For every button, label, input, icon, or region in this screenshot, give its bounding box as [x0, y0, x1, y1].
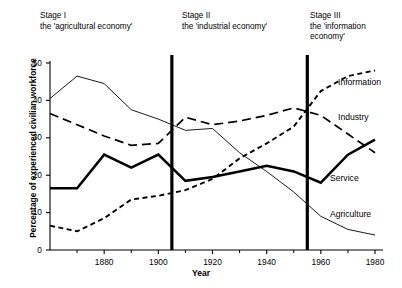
y-tick-label: 10 — [22, 207, 42, 217]
y-tick-label: 20 — [22, 170, 42, 180]
y-tick-label: 0 — [22, 245, 42, 255]
x-tick-label: 1960 — [301, 257, 341, 267]
series-line-industry — [50, 108, 375, 153]
series-line-service — [50, 140, 375, 189]
series-label-industry: Industry — [338, 112, 369, 122]
y-tick-label: 50 — [22, 58, 42, 68]
x-tick-label: 1880 — [84, 257, 124, 267]
series-label-information: Information — [338, 77, 381, 87]
x-tick-label: 1920 — [193, 257, 233, 267]
y-tick-label: 40 — [22, 95, 42, 105]
series-label-service: Service — [330, 173, 359, 183]
plot-area — [0, 0, 402, 288]
y-tick-label: 30 — [22, 132, 42, 142]
x-tick-label: 1940 — [247, 257, 287, 267]
x-tick-label: 1980 — [355, 257, 395, 267]
series-line-agriculture — [50, 76, 375, 235]
series-line-information — [50, 70, 375, 231]
x-tick-label: 1900 — [138, 257, 178, 267]
series-label-agriculture: Agriculture — [330, 209, 371, 219]
figure-chart-workforce: Stage Ithe 'agricultural economy' Stage … — [0, 0, 402, 288]
